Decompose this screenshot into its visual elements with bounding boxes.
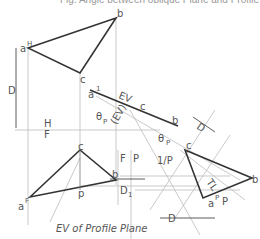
svg-text:c: c	[78, 141, 84, 152]
svg-text:a: a	[18, 201, 24, 212]
svg-text:D: D	[195, 121, 208, 135]
svg-text:b: b	[112, 169, 118, 180]
svg-text:P: P	[166, 139, 170, 147]
svg-text:1: 1	[96, 85, 100, 93]
svg-text:H: H	[44, 118, 52, 129]
svg-text:H: H	[27, 40, 32, 48]
svg-text:1/P: 1/P	[157, 155, 173, 166]
svg-text:P: P	[103, 118, 107, 126]
descriptive-geometry-drawing: a H b c D H F c b a F p F P D 1 a 1 EV c…	[0, 0, 260, 239]
svg-text:c: c	[186, 140, 192, 151]
top-view-triangle	[28, 18, 116, 73]
svg-text:F: F	[120, 153, 126, 164]
svg-text:TL: TL	[204, 176, 221, 193]
svg-text:b: b	[252, 174, 258, 185]
svg-text:D: D	[8, 85, 16, 96]
svg-text:p: p	[78, 188, 84, 199]
svg-text:a: a	[88, 89, 94, 100]
svg-text:P: P	[222, 196, 228, 207]
svg-text:1: 1	[128, 191, 132, 199]
svg-text:F: F	[44, 129, 50, 140]
svg-text:c: c	[140, 101, 146, 112]
svg-text:a: a	[20, 43, 26, 54]
svg-text:a: a	[208, 198, 214, 209]
svg-text:D: D	[120, 185, 128, 196]
svg-text:θ: θ	[158, 133, 164, 144]
svg-text:EV of Profile Plane: EV of Profile Plane	[56, 223, 147, 234]
svg-text:b: b	[172, 115, 178, 126]
svg-text:c: c	[80, 74, 86, 85]
svg-text:P: P	[133, 153, 139, 164]
svg-text:(EV): (EV)	[108, 102, 128, 126]
svg-text:P: P	[215, 194, 219, 202]
svg-text:θ: θ	[96, 111, 102, 122]
svg-text:b: b	[117, 8, 123, 19]
svg-text:D: D	[168, 213, 176, 224]
svg-text:F: F	[25, 197, 29, 205]
profile-triangle	[185, 150, 252, 198]
